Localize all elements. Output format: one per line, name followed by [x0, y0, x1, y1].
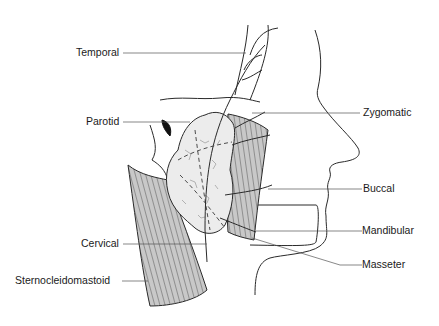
mouth-outline [250, 205, 318, 246]
label-cervical: Cervical [81, 237, 119, 249]
ear-lobe-outline [150, 125, 168, 180]
label-mandibular: Mandibular [362, 224, 414, 236]
ear-outline [160, 97, 260, 102]
cervical-branch [205, 230, 207, 262]
label-buccal: Buccal [363, 182, 395, 194]
label-temporal: Temporal [76, 46, 119, 58]
ear-tragus-marker [162, 120, 171, 136]
label-zygomatic: Zygomatic [363, 106, 411, 118]
label-sternocleidomastoid: Sternocleidomastoid [15, 274, 110, 286]
label-masseter: Masseter [362, 258, 405, 270]
label-parotid: Parotid [86, 115, 119, 127]
facial-nerve-diagram: Temporal Parotid Zygomatic Buccal Mandib… [0, 0, 439, 326]
